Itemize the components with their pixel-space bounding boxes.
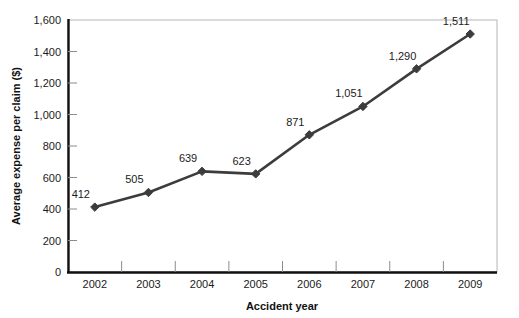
- x-tick-label: 2004: [190, 278, 214, 290]
- y-tick-label: 1,400: [33, 46, 61, 58]
- data-point-label: 1,051: [335, 87, 363, 99]
- x-tick-label: 2006: [297, 278, 321, 290]
- data-point-label: 1,290: [389, 50, 417, 62]
- y-tick-label: 1,000: [33, 109, 61, 121]
- y-tick-label: 600: [43, 172, 61, 184]
- y-tick-label: 400: [43, 203, 61, 215]
- data-point-label: 1,511: [443, 15, 470, 27]
- y-tick-label: 0: [55, 266, 61, 278]
- x-axis-tick-labels: 20022003200420052006200720082009: [83, 278, 483, 290]
- chart-figure: 02004006008001,0001,2001,4001,600 200220…: [0, 0, 519, 318]
- y-tick-label: 1,200: [33, 77, 61, 89]
- y-tick-label: 200: [43, 235, 61, 247]
- x-tick-label: 2005: [243, 278, 267, 290]
- line-chart: 02004006008001,0001,2001,4001,600 200220…: [0, 0, 519, 318]
- data-point-label: 871: [286, 116, 304, 128]
- x-tick-label: 2009: [458, 278, 482, 290]
- data-point-label: 412: [72, 188, 90, 200]
- y-tick-label: 800: [43, 140, 61, 152]
- y-axis-tick-labels: 02004006008001,0001,2001,4001,600: [33, 14, 61, 278]
- data-point-label: 639: [179, 152, 197, 164]
- x-tick-label: 2002: [83, 278, 107, 290]
- x-axis-title: Accident year: [246, 300, 319, 312]
- x-tick-label: 2003: [136, 278, 160, 290]
- y-axis-title: Average expense per claim ($): [10, 67, 22, 225]
- data-point-label: 623: [233, 155, 251, 167]
- x-tick-label: 2007: [351, 278, 375, 290]
- y-tick-label: 1,600: [33, 14, 61, 26]
- data-point-label: 505: [125, 173, 143, 185]
- x-tick-label: 2008: [404, 278, 428, 290]
